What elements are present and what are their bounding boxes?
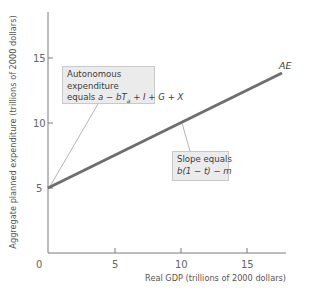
slope-line-2: b(1 − t) − m — [177, 166, 224, 178]
var-minus-b: − b — [103, 92, 121, 102]
chart: 15 10 5 0 5 10 15 Real GDP (trillions of… — [0, 0, 309, 295]
x-tick-label-15: 15 — [241, 259, 254, 270]
y-axis-title: Aggregate planned expenditure (trillions… — [8, 15, 18, 248]
var-rest: + I + G + X — [130, 92, 183, 102]
y-tick-label-15: 15 — [33, 53, 46, 64]
x-tick-label-5: 5 — [112, 259, 118, 270]
x-tick-label-10: 10 — [175, 259, 188, 270]
ae-curve-label: AE — [278, 60, 292, 71]
slope-line-1: Slope equals — [177, 154, 224, 166]
origin-label: 0 — [36, 259, 42, 270]
callout-line-3: equals a − bTa + I + G + X — [67, 92, 150, 106]
slope-leader-line — [182, 123, 190, 151]
autonomous-expenditure-callout: Autonomous expenditure equals a − bTa + … — [62, 66, 155, 104]
callout-equals-text: equals — [67, 92, 98, 102]
slope-callout: Slope equals b(1 − t) − m — [172, 151, 229, 181]
y-tick-label-5: 5 — [36, 183, 42, 194]
callout-line-2: expenditure — [67, 81, 150, 93]
y-tick-label-10: 10 — [33, 118, 46, 129]
callout-line-1: Autonomous — [67, 69, 150, 81]
x-axis-title: Real GDP (trillions of 2000 dollars) — [145, 273, 286, 283]
